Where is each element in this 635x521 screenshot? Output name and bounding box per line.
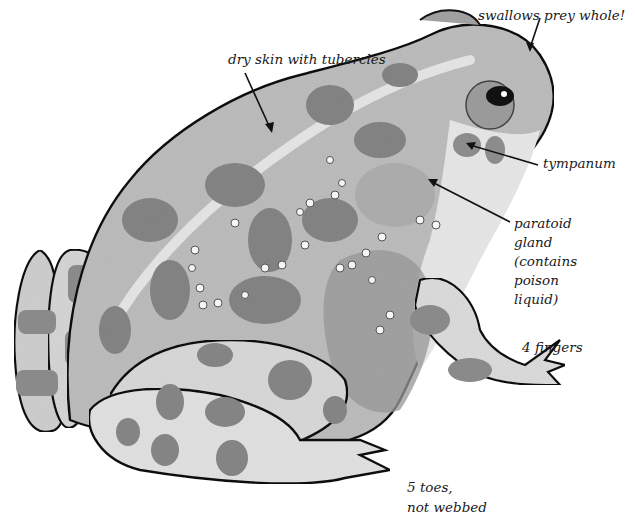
label-toes-line2: not webbed — [407, 498, 487, 517]
label-paratoid-line4: poison — [514, 271, 559, 290]
label-tympanum: tympanum — [543, 154, 616, 173]
label-paratoid-line5: liquid) — [514, 290, 558, 309]
label-paratoid-line2: gland — [514, 233, 552, 252]
label-dry-skin: dry skin with tubercles — [228, 50, 386, 69]
label-paratoid-line1: paratoid — [514, 214, 572, 233]
label-toes-line1: 5 toes, — [407, 478, 453, 497]
eye — [466, 81, 514, 129]
label-paratoid-line3: (contains — [514, 252, 577, 271]
label-swallows-prey: swallows prey whole! — [478, 6, 625, 25]
label-four-fingers: 4 fingers — [522, 338, 583, 357]
